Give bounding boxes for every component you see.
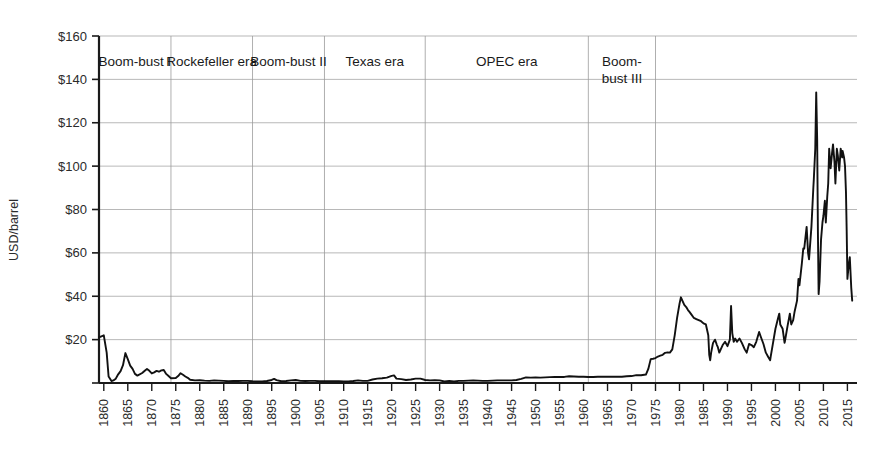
- era-label-0: Boom-bust I: [99, 54, 172, 69]
- y-tick-label: $40: [65, 289, 87, 304]
- x-tick-label: 1995: [745, 399, 759, 427]
- x-tick-label: 1890: [241, 399, 255, 427]
- chart-canvas: Boom-bust IRockefeller eraBoom-bust IITe…: [0, 0, 881, 462]
- y-tick-label: $120: [58, 115, 87, 130]
- x-tick-label: 1915: [361, 399, 375, 427]
- x-tick-label: 1860: [97, 399, 111, 427]
- y-tick-label: $160: [58, 29, 87, 44]
- x-tick-label: 1930: [433, 399, 447, 427]
- y-tick-label: $80: [65, 202, 87, 217]
- x-tick-label: 1880: [193, 399, 207, 427]
- x-tick-label: 1875: [169, 399, 183, 427]
- x-tick-label: 1940: [481, 399, 495, 427]
- era-label-2: Boom-bust II: [250, 54, 327, 69]
- x-tick-label: 1965: [601, 399, 615, 427]
- x-tick-label: 2015: [841, 399, 855, 427]
- y-tick-label: $20: [65, 332, 87, 347]
- y-axis-title: USD/barrel: [7, 199, 21, 261]
- x-tick-label: 2005: [793, 399, 807, 427]
- oil-price-chart: Boom-bust IRockefeller eraBoom-bust IITe…: [0, 0, 881, 462]
- x-tick-label: 1990: [721, 399, 735, 427]
- era-label-3: Texas era: [346, 54, 405, 69]
- x-tick-label: 1870: [145, 399, 159, 427]
- x-tick-label: 1885: [217, 399, 231, 427]
- x-tick-label: 1950: [529, 399, 543, 427]
- x-tick-label: 1955: [553, 399, 567, 427]
- x-tick-label: 1895: [265, 399, 279, 427]
- x-tick-label: 2000: [769, 399, 783, 427]
- x-tick-label: 1925: [409, 399, 423, 427]
- chart-background: [0, 0, 881, 462]
- y-tick-label: $100: [58, 159, 87, 174]
- x-tick-label: 1900: [289, 399, 303, 427]
- era-label-1: Rockefeller era: [166, 54, 257, 69]
- x-tick-label: 1910: [337, 399, 351, 427]
- x-tick-label: 1945: [505, 399, 519, 427]
- x-tick-label: 1985: [697, 399, 711, 427]
- x-tick-label: 1865: [121, 399, 135, 427]
- x-tick-label: 1980: [673, 399, 687, 427]
- era-label-4: OPEC era: [476, 54, 538, 69]
- x-tick-label: 2010: [817, 399, 831, 427]
- y-tick-label: $140: [58, 72, 87, 87]
- x-tick-label: 1905: [313, 399, 327, 427]
- x-tick-label: 1960: [577, 399, 591, 427]
- x-tick-label: 1970: [625, 399, 639, 427]
- y-tick-label: $60: [65, 245, 87, 260]
- x-tick-label: 1920: [385, 399, 399, 427]
- x-tick-label: 1935: [457, 399, 471, 427]
- x-tick-label: 1975: [649, 399, 663, 427]
